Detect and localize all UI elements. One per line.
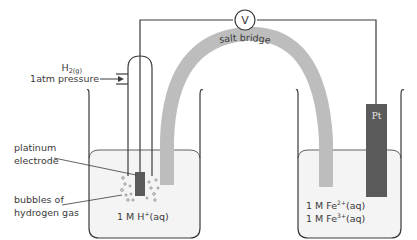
bubbles-label-line2: hydrogen gas [14,207,79,218]
right-solution-label-2: 1 M Fe3+(aq) [306,212,365,224]
pt-label: Pt [372,111,382,121]
right-solution-label-1: 1 M Fe2+(aq) [306,199,365,211]
electrochemical-cell-diagram: salt bridge V Pt H2(g) 1atm pressure pla… [0,0,417,240]
platinum-electrode-left [135,172,145,196]
electrode-label-line2: electrode [14,155,59,166]
salt-bridge-label: salt bridge [218,32,271,46]
arrow-head-icon [118,76,124,82]
electrode-label-line1: platinum [14,142,56,153]
bubbles-label-line1: bubbles of [14,194,64,205]
pressure-label: 1atm pressure [30,73,99,84]
voltmeter-symbol: V [241,14,249,27]
left-solution-label: 1 M H+(aq) [117,210,169,222]
